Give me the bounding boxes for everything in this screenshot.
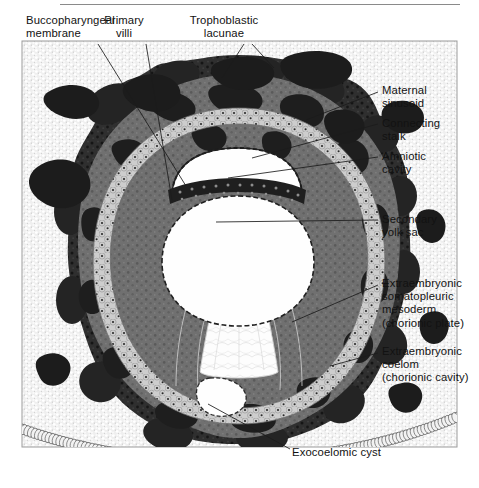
label-secondary-yolk-sac: Secondary yolk sac	[382, 213, 437, 239]
figure-page: Buccopharyngeal membranePrimary villiTro…	[0, 0, 479, 488]
label-buccopharyngeal-membrane: Buccopharyngeal membrane	[26, 14, 115, 40]
label-trophoblastic-lacunae: Trophoblastic lacunae	[190, 14, 259, 40]
label-exocoelomic-cyst: Exocoelomic cyst	[292, 446, 381, 459]
secondary-yolk-sac	[162, 196, 314, 326]
label-maternal-sinusoid: Maternal sinusoid	[382, 84, 427, 110]
label-primary-villi: Primary villi	[104, 14, 144, 40]
label-extraembryonic-somatopleuric-mesoderm: Extraembryonic somatopleuric mesoderm (c…	[382, 277, 464, 330]
implantation-diagram	[0, 0, 479, 488]
label-connecting-stalk: Connecting stalk	[382, 117, 440, 143]
label-amniotic-cavity: Amniotic cavity	[382, 150, 426, 176]
label-extraembryonic-coelom: Extraembryonic coelom (chorionic cavity)	[382, 345, 469, 385]
